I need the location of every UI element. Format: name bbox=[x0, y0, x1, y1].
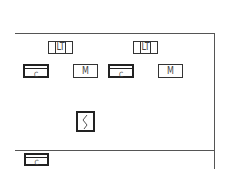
c-box-1[interactable]: C bbox=[23, 64, 49, 78]
m-box-2[interactable]: M bbox=[158, 64, 183, 78]
right-border-line bbox=[214, 33, 215, 169]
m-label: M bbox=[167, 66, 174, 77]
lt-box-2[interactable]: LT bbox=[133, 41, 158, 54]
lt-label: LT bbox=[141, 42, 149, 53]
divider-line bbox=[15, 150, 214, 151]
c-label: C bbox=[119, 69, 123, 77]
m-label: M bbox=[82, 66, 89, 77]
c-label: C bbox=[34, 69, 38, 77]
c-box-2[interactable]: C bbox=[108, 64, 134, 78]
lt-box-1[interactable]: LT bbox=[48, 41, 73, 54]
lt-label: LT bbox=[56, 42, 64, 53]
m-box-1[interactable]: M bbox=[73, 64, 98, 78]
s-curve-icon bbox=[80, 114, 91, 130]
c-box-3[interactable]: C bbox=[24, 153, 49, 166]
top-border-line bbox=[15, 33, 214, 34]
c-label: C bbox=[34, 157, 38, 165]
switch-box[interactable] bbox=[76, 111, 95, 132]
